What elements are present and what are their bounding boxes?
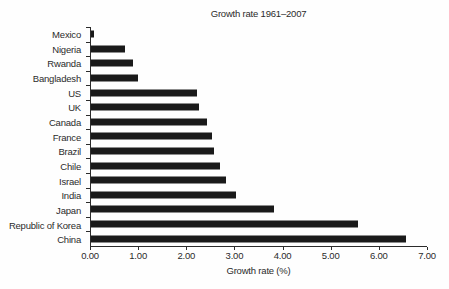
y-axis-tick bbox=[86, 188, 90, 189]
y-axis-tick bbox=[86, 42, 90, 43]
x-axis-ticks: 0.001.002.003.004.005.006.007.00 bbox=[90, 247, 427, 261]
x-axis-tick-label: 3.00 bbox=[226, 250, 244, 261]
bar-row bbox=[91, 56, 427, 71]
y-axis-tick bbox=[86, 202, 90, 203]
category-label: Nigeria bbox=[0, 42, 85, 57]
bar-republic-of-korea bbox=[91, 221, 358, 228]
bar-bangladesh bbox=[91, 75, 138, 82]
bar-us bbox=[91, 89, 197, 96]
y-axis-tick bbox=[86, 85, 90, 86]
plot-area bbox=[90, 27, 427, 247]
y-axis-tick bbox=[86, 129, 90, 130]
category-label: Japan bbox=[0, 203, 85, 218]
bar-row bbox=[91, 71, 427, 86]
category-label: Brazil bbox=[0, 144, 85, 159]
x-axis-title: Growth rate (%) bbox=[90, 265, 427, 276]
bar-row bbox=[91, 231, 427, 246]
x-axis-tick-label: 2.00 bbox=[177, 250, 195, 261]
category-label: UK bbox=[0, 100, 85, 115]
category-label: Chile bbox=[0, 159, 85, 174]
y-axis-tick bbox=[86, 100, 90, 101]
y-axis-labels: MexicoNigeriaRwandaBangladeshUSUKCanadaF… bbox=[0, 27, 85, 247]
plot-rows bbox=[91, 27, 427, 246]
bar-row bbox=[91, 115, 427, 130]
bar-row bbox=[91, 158, 427, 173]
bar-row bbox=[91, 42, 427, 57]
bar-row bbox=[91, 85, 427, 100]
x-axis-tick-label: 4.00 bbox=[274, 250, 292, 261]
category-label: Bangladesh bbox=[0, 71, 85, 86]
x-axis-tick-label: 6.00 bbox=[370, 250, 388, 261]
category-label: India bbox=[0, 188, 85, 203]
bar-row bbox=[91, 129, 427, 144]
bar-row bbox=[91, 100, 427, 115]
bar-france bbox=[91, 133, 212, 140]
category-label: US bbox=[0, 86, 85, 101]
bar-row bbox=[91, 27, 427, 42]
bar-china bbox=[91, 235, 406, 242]
y-axis-tick bbox=[86, 71, 90, 72]
x-axis-tick-label: 7.00 bbox=[418, 250, 436, 261]
category-label: Israel bbox=[0, 174, 85, 189]
x-axis-tick-label: 1.00 bbox=[129, 250, 147, 261]
bar-row bbox=[91, 188, 427, 203]
y-axis-tick bbox=[86, 158, 90, 159]
bar-nigeria bbox=[91, 45, 125, 52]
bar-row bbox=[91, 202, 427, 217]
chart-title: Growth rate 1961–2007 bbox=[90, 8, 427, 19]
category-label: France bbox=[0, 130, 85, 145]
bar-japan bbox=[91, 206, 274, 213]
category-label: China bbox=[0, 232, 85, 247]
bar-rwanda bbox=[91, 60, 133, 67]
x-axis-tick-label: 5.00 bbox=[322, 250, 340, 261]
y-axis-tick bbox=[86, 173, 90, 174]
bar-mexico bbox=[91, 31, 94, 38]
bar-row bbox=[91, 144, 427, 159]
bar-canada bbox=[91, 118, 207, 125]
bar-chile bbox=[91, 162, 220, 169]
y-axis-tick bbox=[86, 144, 90, 145]
bar-brazil bbox=[91, 148, 214, 155]
y-axis-tick bbox=[86, 56, 90, 57]
x-axis-tick-label: 0.00 bbox=[81, 250, 99, 261]
bar-uk bbox=[91, 104, 199, 111]
category-label: Republic of Korea bbox=[0, 218, 85, 233]
category-label: Mexico bbox=[0, 27, 85, 42]
category-label: Rwanda bbox=[0, 56, 85, 71]
y-axis-tick bbox=[86, 217, 90, 218]
y-axis-tick bbox=[86, 231, 90, 232]
bar-row bbox=[91, 217, 427, 232]
category-label: Canada bbox=[0, 115, 85, 130]
growth-rate-bar-chart: Growth rate 1961–2007 MexicoNigeriaRwand… bbox=[0, 0, 449, 289]
y-axis-tick bbox=[86, 27, 90, 28]
y-axis-tick bbox=[86, 115, 90, 116]
bar-row bbox=[91, 173, 427, 188]
bar-israel bbox=[91, 177, 226, 184]
bar-india bbox=[91, 191, 236, 198]
